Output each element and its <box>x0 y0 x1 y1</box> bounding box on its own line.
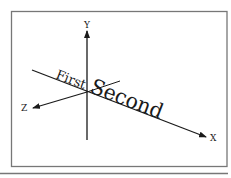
x-axis-label: X <box>210 133 217 143</box>
y-axis-label: Y <box>83 20 91 30</box>
z-axis-label: Z <box>21 103 27 113</box>
3d-axes-diagram: Y Z X First Second <box>0 0 231 178</box>
